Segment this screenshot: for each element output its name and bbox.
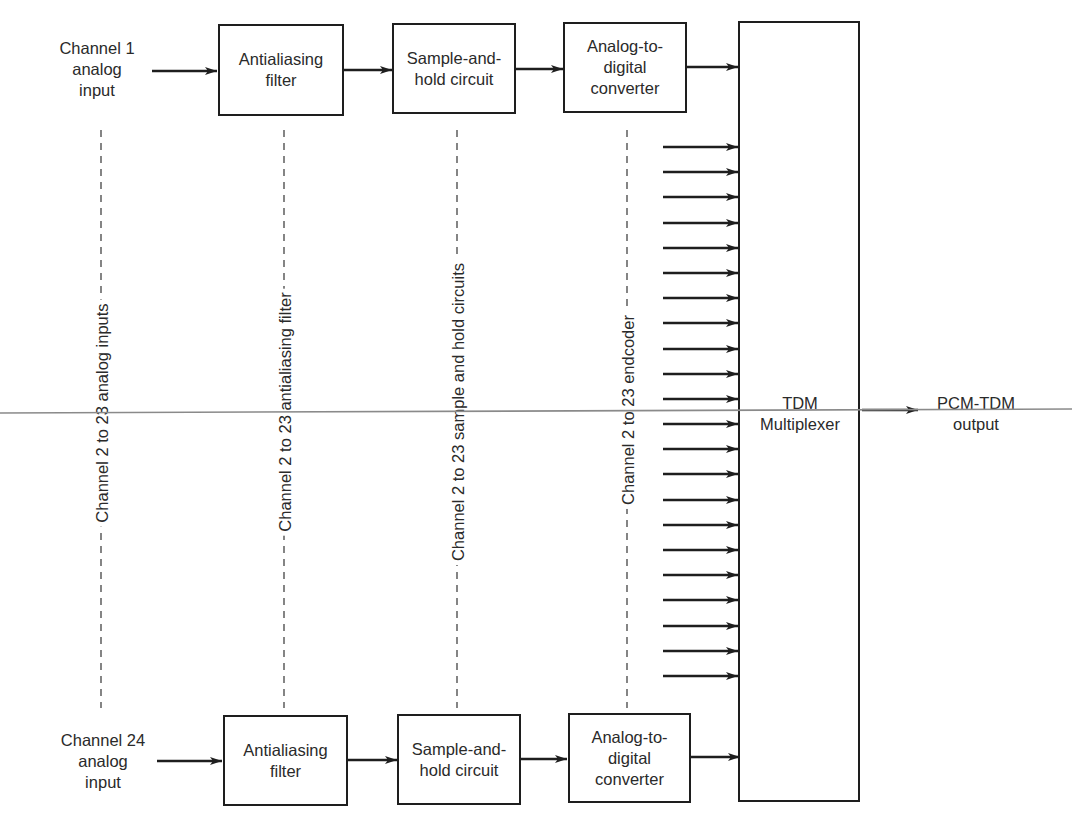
block-label: Analog-to- digital converter — [591, 727, 667, 790]
column-label-analog-inputs: Channel 2 to 23 analog inputs — [93, 299, 111, 526]
column-label-encoder: Channel 2 to 23 endcoder — [619, 311, 637, 509]
pcm-tdm-output-label: PCM-TDM output — [937, 393, 1015, 435]
connection-wires — [0, 0, 1072, 832]
channel-1-input-label: Channel 1 analog input — [59, 38, 134, 101]
channel-24-input-label: Channel 24 analog input — [61, 730, 145, 793]
block-label: Sample-and- hold circuit — [407, 48, 501, 90]
dashed-column-lines — [101, 130, 627, 708]
block-label: Antialiasing filter — [239, 49, 323, 91]
column-label-antialiasing-filter: Channel 2 to 23 antialiasing filter — [276, 288, 294, 535]
intermediate-channel-arrows — [663, 147, 738, 676]
ch24-adc-block: Analog-to- digital converter — [568, 713, 691, 803]
ch1-antialiasing-filter-block: Antialiasing filter — [218, 24, 344, 116]
block-label: Analog-to- digital converter — [587, 36, 663, 99]
ch1-sample-hold-block: Sample-and- hold circuit — [392, 23, 516, 114]
tdm-multiplexer-label: TDM Multiplexer — [760, 393, 840, 435]
column-label-sample-hold: Channel 2 to 23 sample and hold circuits — [449, 259, 467, 565]
ch24-antialiasing-filter-block: Antialiasing filter — [223, 715, 348, 806]
block-label: Antialiasing filter — [243, 740, 327, 782]
ch1-adc-block: Analog-to- digital converter — [563, 22, 687, 113]
ch24-sample-hold-block: Sample-and- hold circuit — [397, 714, 521, 805]
block-label: Sample-and- hold circuit — [412, 739, 506, 781]
pcm-tdm-diagram: Channel 1 analog input Antialiasing filt… — [0, 0, 1072, 832]
